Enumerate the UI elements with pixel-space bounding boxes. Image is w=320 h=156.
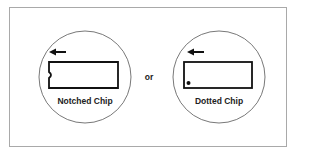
arrow-left-icon (187, 49, 204, 56)
notched-chip-body (49, 62, 118, 88)
notched-chip-label: Notched Chip (57, 96, 112, 106)
dotted-chip-label: Dotted Chip (195, 96, 243, 106)
dotted-chip-body (184, 62, 252, 88)
connector-or-label: or (145, 72, 154, 82)
arrow-left-icon (49, 49, 66, 56)
pin1-dot-icon (187, 81, 191, 85)
